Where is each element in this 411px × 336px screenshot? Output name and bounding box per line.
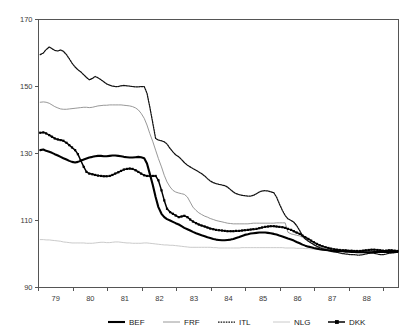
legend-item-frf[interactable]: FRF xyxy=(163,318,200,327)
legend-label-nlg: NLG xyxy=(294,318,310,327)
legend-label-itl: ITL xyxy=(239,318,251,327)
y-axis-tick-label: 110 xyxy=(21,216,33,225)
series-line-bef xyxy=(40,149,397,252)
series-line-itl xyxy=(40,47,397,255)
x-axis-tick-label: 85 xyxy=(259,294,267,303)
legend-item-nlg[interactable]: NLG xyxy=(273,318,310,327)
x-axis-tick-label: 79 xyxy=(52,294,60,303)
legend-label-dkk: DKK xyxy=(349,318,366,327)
legend-label-frf: FRF xyxy=(184,318,200,327)
series-markers-dkk xyxy=(39,131,398,252)
axes: 9011013015017079808182838485868788 xyxy=(20,15,399,302)
x-axis-tick-label: 82 xyxy=(155,294,163,303)
x-axis-tick-label: 84 xyxy=(224,294,232,303)
x-axis-tick-label: 86 xyxy=(293,294,301,303)
chart-legend: BEFFRFITLNLGDKK xyxy=(108,318,366,327)
y-axis-tick-label: 170 xyxy=(20,15,33,24)
series-line-dkk xyxy=(40,132,397,251)
line-chart: 9011013015017079808182838485868788 BEFFR… xyxy=(0,0,411,336)
legend-item-bef[interactable]: BEF xyxy=(108,318,145,327)
x-axis-tick-label: 87 xyxy=(328,294,336,303)
x-axis-tick-label: 88 xyxy=(363,294,371,303)
x-axis-tick-label: 83 xyxy=(190,294,198,303)
y-axis-tick-label: 130 xyxy=(20,149,33,158)
y-axis-tick-label: 90 xyxy=(24,283,32,292)
y-axis-tick-label: 150 xyxy=(20,82,33,91)
legend-label-bef: BEF xyxy=(129,318,145,327)
legend-marker-dkk xyxy=(335,320,339,324)
x-axis-tick-label: 81 xyxy=(121,294,129,303)
legend-item-itl[interactable]: ITL xyxy=(218,318,251,327)
chart-container: 9011013015017079808182838485868788 BEFFR… xyxy=(0,0,411,336)
legend-item-dkk[interactable]: DKK xyxy=(328,318,366,327)
x-axis-tick-label: 80 xyxy=(86,294,94,303)
series-lines xyxy=(39,47,398,255)
